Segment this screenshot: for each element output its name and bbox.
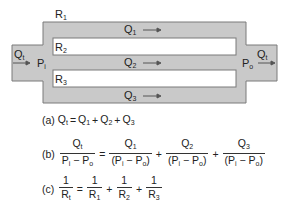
label-r2-sub: 2 [63, 47, 67, 54]
eq-b-term-1: Q1 (Pi − Po) [109, 138, 151, 169]
equals-sign: = [70, 114, 76, 126]
eq-a-lhs-base: Q [58, 113, 66, 125]
eq-b-lhs-fraction: Qt Pi − Po [60, 138, 95, 169]
label-inlet-q-sub: t [23, 54, 25, 61]
label-r3: R3 [55, 74, 67, 86]
equation-a-label: (a) [42, 114, 55, 126]
label-r1-sub: 1 [63, 14, 67, 21]
den-sub: t [69, 194, 71, 201]
eq-c-term-3: 1 R3 [146, 175, 162, 203]
fraction-numerator: 1 [149, 175, 159, 187]
fraction-denominator: R1 [87, 187, 103, 203]
label-r3-base: R [55, 73, 63, 85]
eq-a-lhs-sub: t [66, 119, 68, 126]
fraction-denominator: (Pi − Po) [109, 153, 151, 169]
den-base: R [148, 188, 156, 200]
fraction-denominator: R3 [146, 187, 162, 203]
eq-b-term-2: Q2 (Pi − Po) [166, 138, 208, 169]
eq-c-term-1: 1 R1 [87, 175, 103, 203]
label-outlet-q-base: Q [257, 48, 266, 60]
den-base: R [61, 188, 69, 200]
equation-b-label: (b) [42, 148, 55, 160]
eq-b-term-3: Q3 (Pi − Po) [223, 138, 265, 169]
term-base: Q [78, 113, 86, 125]
label-po: Po [242, 58, 253, 70]
label-outlet-q-sub: t [266, 54, 268, 61]
fraction-numerator: Qt [70, 138, 84, 153]
label-r1: R1 [55, 9, 67, 21]
eq-a-term-3: Q3 [122, 113, 134, 126]
label-q2: Q2 [124, 57, 136, 69]
term-sub: 3 [131, 119, 135, 126]
fraction-denominator: Pi − Po [60, 153, 95, 169]
term-sub: 1 [86, 119, 90, 126]
equation-a: (a) Qt = Q1 + Q2 + Q3 [42, 113, 135, 126]
label-pi: Pi [37, 58, 46, 70]
fraction-numerator: 1 [90, 175, 100, 187]
label-po-sub: o [249, 63, 253, 70]
inner-bar-r2 [53, 38, 236, 55]
label-r3-sub: 3 [63, 79, 67, 86]
label-r2-base: R [55, 41, 63, 53]
label-pi-sub: i [44, 63, 46, 70]
equals-sign: = [77, 183, 83, 195]
fraction-denominator: (Pi − Po) [223, 153, 265, 169]
fraction-numerator: Q1 [123, 138, 139, 153]
den-sub: 2 [126, 194, 130, 201]
fraction-denominator: Rt [59, 187, 73, 203]
label-q2-sub: 2 [133, 62, 137, 69]
label-q3: Q3 [124, 90, 136, 102]
label-q3-base: Q [124, 89, 133, 101]
label-r1-base: R [55, 8, 63, 20]
plus-sign: + [106, 183, 112, 195]
plus-sign: + [114, 114, 120, 126]
label-q3-sub: 3 [133, 95, 137, 102]
plus-sign: + [92, 114, 98, 126]
plus-sign: + [136, 183, 142, 195]
label-r2: R2 [55, 42, 67, 54]
equation-c-label: (c) [42, 183, 54, 195]
den-sub: 3 [156, 194, 160, 201]
equation-a-lhs: Qt [58, 113, 68, 126]
label-q1: Q1 [124, 24, 136, 36]
den-sub: 1 [96, 194, 100, 201]
label-inlet-q-base: Q [14, 48, 23, 60]
inner-bar-r3 [53, 70, 236, 87]
label-q1-base: Q [124, 23, 133, 35]
eq-c-lhs-fraction: 1 Rt [59, 175, 73, 203]
eq-a-term-2: Q2 [100, 113, 112, 126]
equation-b: (b) Qt Pi − Po = Q1 (Pi − Po) + Q2 (Pi −… [42, 138, 267, 169]
fraction-numerator: 1 [61, 175, 71, 187]
parallel-flow-diagram [0, 0, 284, 110]
den-base: R [119, 188, 127, 200]
fraction-numerator: Q2 [179, 138, 195, 153]
label-outlet-q: Qt [257, 49, 268, 61]
label-q2-base: Q [124, 56, 133, 68]
eq-a-term-1: Q1 [78, 113, 90, 126]
label-q1-sub: 1 [133, 29, 137, 36]
fraction-denominator: R2 [117, 187, 133, 203]
plus-sign: + [156, 148, 162, 160]
fraction-numerator: 1 [119, 175, 129, 187]
fraction-denominator: (Pi − Po) [166, 153, 208, 169]
label-inlet-q: Qt [14, 49, 25, 61]
term-base: Q [122, 113, 130, 125]
eq-c-term-2: 1 R2 [117, 175, 133, 203]
term-sub: 2 [108, 119, 112, 126]
fraction-numerator: Q3 [236, 138, 252, 153]
plus-sign: + [212, 148, 218, 160]
equation-c: (c) 1 Rt = 1 R1 + 1 R2 + 1 R3 [42, 175, 164, 203]
equals-sign: = [99, 148, 105, 160]
